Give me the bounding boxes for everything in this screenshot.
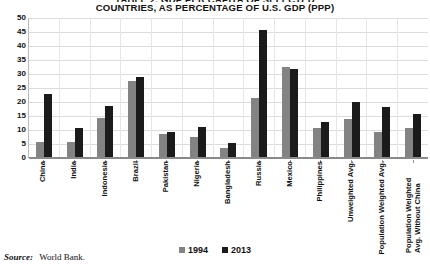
x-label-cell: India xyxy=(59,160,90,252)
y-tick-label: 0 xyxy=(0,154,26,162)
y-tick-label: 15 xyxy=(0,112,26,120)
bar-1994 xyxy=(36,142,44,157)
legend-label: 2013 xyxy=(231,245,251,255)
bar-2013 xyxy=(44,94,52,157)
x-tick-label: Brazil xyxy=(132,161,140,182)
legend-item: 1994 xyxy=(179,245,208,255)
bar-1994 xyxy=(220,148,228,157)
y-tick-label: 30 xyxy=(0,70,26,78)
x-label-cell: Indonesia xyxy=(90,160,121,252)
bar-2013 xyxy=(382,107,390,157)
axis-baseline xyxy=(29,158,428,159)
x-tick-label: Bangladesh xyxy=(224,161,232,204)
y-tick-label: 45 xyxy=(0,28,26,36)
bar-2013 xyxy=(352,102,360,157)
bar-2013 xyxy=(259,30,267,157)
bar-2013 xyxy=(167,132,175,157)
bar-group xyxy=(183,18,214,157)
legend-label: 1994 xyxy=(188,245,208,255)
bar-1994 xyxy=(405,128,413,157)
x-label-cell: Population Weighted Avg. Without China xyxy=(397,160,428,252)
bar-1994 xyxy=(251,98,259,157)
x-tick-label: Unweighted Avg. xyxy=(347,161,355,222)
x-tick-label: Russia xyxy=(255,161,263,186)
bar-2013 xyxy=(105,106,113,157)
bar-2013 xyxy=(136,77,144,157)
bar-1994 xyxy=(128,81,136,157)
x-label-cell: Mexico xyxy=(274,160,305,252)
y-tick-label: 35 xyxy=(0,56,26,64)
x-label-cell: Pakistan xyxy=(151,160,182,252)
x-tick-label: China xyxy=(39,161,47,182)
x-label-cell: Bangladesh xyxy=(213,160,244,252)
bar-group xyxy=(398,18,428,157)
bar-2013 xyxy=(228,143,236,157)
x-label-cell: Unweighted Avg. xyxy=(336,160,367,252)
bar-group xyxy=(60,18,91,157)
y-tick-label: 5 xyxy=(0,140,26,148)
bar-2013 xyxy=(198,127,206,157)
x-label-cell: Nigeria xyxy=(182,160,213,252)
bar-2013 xyxy=(321,122,329,157)
y-axis-labels: 05101520253035404550 xyxy=(0,18,26,158)
legend-swatch xyxy=(179,247,185,253)
x-label-cell: Russia xyxy=(243,160,274,252)
bar-2013 xyxy=(290,69,298,157)
bar-1994 xyxy=(282,67,290,157)
bar-2013 xyxy=(413,114,421,157)
bar-group xyxy=(306,18,337,157)
x-tick-label: Philippines xyxy=(316,161,324,202)
x-axis-labels: ChinaIndiaIndonesiaBrazilPakistanNigeria… xyxy=(28,160,428,252)
plot-canvas xyxy=(28,18,428,158)
y-tick-label: 10 xyxy=(0,126,26,134)
legend-swatch xyxy=(222,247,228,253)
bar-2013 xyxy=(75,128,83,157)
x-tick-label: Population Weighted Avg. Without China xyxy=(404,161,421,253)
bar-1994 xyxy=(313,128,321,157)
bar-1994 xyxy=(374,132,382,157)
y-tick-label: 20 xyxy=(0,98,26,106)
bar-group xyxy=(152,18,183,157)
x-tick-label: Pakistan xyxy=(162,161,170,192)
y-tick-label: 25 xyxy=(0,84,26,92)
bar-group xyxy=(29,18,60,157)
bar-1994 xyxy=(67,142,75,157)
bar-group xyxy=(121,18,152,157)
bar-group xyxy=(367,18,398,157)
source-label: Source: xyxy=(4,252,33,262)
bar-group xyxy=(214,18,245,157)
x-tick-label: Mexico xyxy=(286,161,294,187)
bar-1994 xyxy=(97,118,105,157)
bar-group xyxy=(337,18,368,157)
bar-group xyxy=(91,18,122,157)
x-tick-label: Indonesia xyxy=(101,161,109,196)
x-tick-label: Population Weighted Avg. xyxy=(378,161,386,254)
x-tick-label: Nigeria xyxy=(193,161,201,187)
plot-area: 05101520253035404550 xyxy=(0,18,430,158)
x-label-cell: Philippines xyxy=(305,160,336,252)
x-label-cell: Brazil xyxy=(120,160,151,252)
y-tick-label: 40 xyxy=(0,42,26,50)
x-label-cell: China xyxy=(28,160,59,252)
bar-1994 xyxy=(159,134,167,157)
bar-1994 xyxy=(190,137,198,157)
x-label-cell: Population Weighted Avg. xyxy=(366,160,397,252)
x-tick-label: India xyxy=(70,161,78,179)
bar-group xyxy=(244,18,275,157)
bar-groups xyxy=(29,18,428,157)
bar-1994 xyxy=(344,119,352,157)
source-note: Source: World Bank. xyxy=(4,252,85,262)
source-value: World Bank. xyxy=(39,252,85,262)
y-tick-label: 50 xyxy=(0,14,26,22)
legend-item: 2013 xyxy=(222,245,251,255)
chart-title: COUNTRIES, AS PERCENTAGE OF U.S. GDP (PP… xyxy=(0,2,430,13)
bar-group xyxy=(275,18,306,157)
figure-chart: TABLE 2. GDP PER CAPITA OF SELECTED COUN… xyxy=(0,0,430,270)
